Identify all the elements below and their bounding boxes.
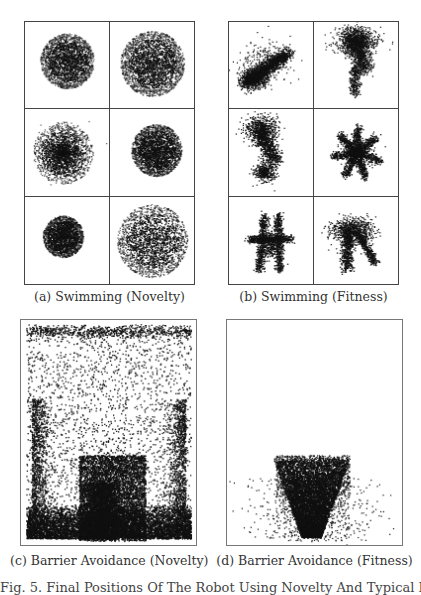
plot-cell	[25, 197, 110, 284]
scatter-plot	[25, 22, 109, 108]
plot-cell	[314, 22, 399, 109]
plot-cell	[314, 109, 399, 196]
barrier-fitness-plot	[226, 319, 403, 546]
scatter-plot	[314, 109, 399, 195]
subfigure-caption-d: (d) Barrier Avoidance (Fitness)	[216, 553, 413, 568]
subfigure-caption-b: (b) Swimming (Fitness)	[228, 289, 399, 304]
plot-cell	[229, 109, 314, 196]
scatter-plot	[25, 109, 109, 195]
scatter-plot	[21, 320, 196, 545]
scatter-plot	[110, 197, 195, 284]
plot-cell	[110, 197, 195, 284]
scatter-plot	[227, 320, 402, 545]
scatter-plot	[314, 197, 399, 284]
subfigure-caption-c: (c) Barrier Avoidance (Novelty)	[10, 553, 207, 568]
plot-cell	[110, 109, 195, 196]
swimming-fitness-grid	[228, 21, 399, 285]
barrier-novelty-plot	[20, 319, 197, 546]
plot-cell	[229, 197, 314, 284]
scatter-plot	[229, 109, 313, 195]
scatter-plot	[25, 197, 109, 284]
scatter-plot	[229, 22, 313, 108]
plot-cell	[25, 22, 110, 109]
scatter-plot	[314, 22, 399, 108]
plot-cell	[314, 197, 399, 284]
plot-cell	[229, 22, 314, 109]
swimming-novelty-grid	[24, 21, 195, 285]
scatter-plot	[229, 197, 313, 284]
plot-cell	[110, 22, 195, 109]
scatter-plot	[110, 109, 195, 195]
subfigure-caption-a: (a) Swimming (Novelty)	[24, 289, 195, 304]
plot-cell	[25, 109, 110, 196]
figure-caption: Fig. 5. Final Positions Of The Robot Usi…	[0, 580, 421, 595]
scatter-plot	[110, 22, 195, 108]
